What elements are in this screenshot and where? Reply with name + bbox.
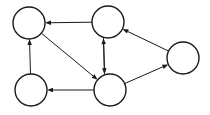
directed-graph-diagram bbox=[0, 0, 210, 115]
node-bottom-middle-circle[interactable] bbox=[94, 74, 126, 106]
node-top-middle-circle[interactable] bbox=[92, 6, 124, 38]
node-top-middle[interactable] bbox=[92, 6, 124, 38]
node-bottom-middle[interactable] bbox=[94, 74, 126, 106]
node-top-left[interactable] bbox=[13, 7, 45, 39]
node-top-left-circle[interactable] bbox=[13, 7, 45, 39]
node-bottom-left-circle[interactable] bbox=[15, 74, 47, 106]
node-bottom-left[interactable] bbox=[15, 74, 47, 106]
node-right[interactable] bbox=[167, 42, 199, 74]
node-right-circle[interactable] bbox=[167, 42, 199, 74]
edge-top-middle-to-top-left-line bbox=[51, 22, 92, 23]
